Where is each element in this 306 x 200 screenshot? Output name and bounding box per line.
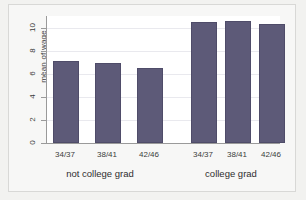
y-tick-label: 8 [28,42,37,58]
chart-figure: mean of wage 0246810 34/3738/4142/4634/3… [0,0,306,200]
y-tick-label: 2 [28,111,37,127]
x-axis-group-label-college-grad: college grad [176,168,286,179]
y-tick-label: 0 [28,135,37,151]
bar-not-college-grad-38-41 [95,63,121,143]
y-tick-label: 10 [28,19,37,35]
y-tick-label: 4 [28,88,37,104]
y-tick-label: 6 [28,65,37,81]
bar-college-grad-38-41 [225,21,251,143]
x-tick-label: 42/46 [127,150,171,159]
x-tick-label: 38/41 [85,150,129,159]
bar-not-college-grad-42-46 [137,68,163,143]
plot-area [46,16,280,143]
x-axis-line [46,143,280,144]
x-tick-label: 42/46 [249,150,293,159]
bar-college-grad-34-37 [191,22,217,143]
x-axis-group-label-not-college-grad: not college grad [40,168,160,179]
bar-not-college-grad-34-37 [53,61,79,143]
x-tick-label: 34/37 [43,150,87,159]
bar-college-grad-42-46 [259,24,285,143]
